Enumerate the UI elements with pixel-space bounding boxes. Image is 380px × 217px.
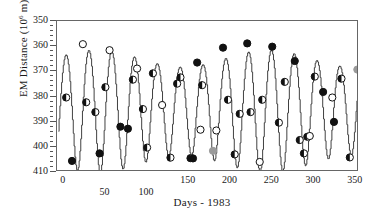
y-tick-minor (50, 60, 53, 61)
y-tick-minor (50, 131, 53, 132)
data-point-filled (320, 88, 327, 95)
y-tick-label: 410 (20, 166, 48, 176)
data-point-half (236, 110, 243, 117)
data-point-half (338, 75, 345, 82)
data-point-half (83, 99, 90, 106)
y-tick-minor (50, 111, 53, 112)
y-tick-label: 370 (20, 65, 48, 75)
data-point-open (329, 94, 336, 101)
y-tick-minor (50, 136, 53, 137)
y-tick-minor (50, 141, 53, 142)
data-point-filled (124, 125, 131, 132)
y-tick-minor (50, 75, 53, 76)
y-tick-minor (50, 90, 53, 91)
y-tick-minor (50, 106, 53, 107)
data-point-half (224, 96, 231, 103)
y-tick-minor (50, 65, 53, 66)
data-point-filled (68, 157, 75, 164)
data-point-markers (63, 40, 358, 166)
x-tick-label: 300 (296, 175, 330, 185)
data-point-filled (194, 59, 201, 66)
x-axis-label: Days - 1983 (56, 196, 348, 208)
data-point-open (213, 127, 220, 134)
data-point-half (311, 73, 318, 80)
data-point-half (346, 154, 353, 161)
data-point-half (259, 96, 266, 103)
data-point-half (92, 109, 99, 116)
y-tick-label: 380 (20, 91, 48, 101)
data-point-half (63, 94, 70, 101)
y-tick-label: 360 (20, 40, 48, 50)
data-point-half (281, 78, 288, 85)
chart-figure: EM Distance (106 m) 35036037038039040041… (0, 0, 380, 217)
data-point-open (256, 158, 263, 165)
data-point-filled (96, 150, 103, 157)
data-point-open (79, 41, 86, 48)
data-point-open (306, 132, 313, 139)
data-point-half (139, 105, 146, 112)
data-point-half (167, 154, 174, 161)
y-tick-minor (50, 25, 53, 26)
y-tick-minor (50, 40, 53, 41)
data-point-half (177, 74, 184, 81)
y-tick-label: 400 (20, 141, 48, 151)
y-tick-minor (50, 151, 53, 152)
data-point-filled (269, 43, 276, 50)
data-point-gray (354, 66, 358, 73)
data-point-half (247, 109, 254, 116)
data-point-filled (330, 118, 337, 125)
x-tick-label: 250 (254, 175, 288, 185)
data-point-open (106, 47, 113, 54)
y-axis-label-unit: m) (17, 0, 29, 15)
y-tick-minor (50, 166, 53, 167)
data-point-open (159, 101, 166, 108)
x-tick-label: 150 (171, 175, 205, 185)
data-point-filled (117, 123, 124, 130)
data-point-half (143, 144, 150, 151)
y-axis-label-text: EM Distance (10 (17, 19, 29, 97)
data-point-half (149, 70, 156, 77)
data-point-half (300, 150, 307, 157)
y-tick-label: 350 (20, 15, 48, 25)
y-tick-major (50, 171, 56, 172)
data-point-half (102, 84, 109, 91)
data-point-filled (291, 57, 298, 64)
data-point-filled (189, 155, 196, 162)
plot-svg (57, 21, 358, 171)
y-tick-label: 390 (20, 116, 48, 126)
data-point-open (197, 126, 204, 133)
data-point-half (296, 136, 303, 143)
y-tick-minor (50, 80, 53, 81)
y-tick-minor (50, 101, 53, 102)
y-tick-minor (50, 85, 53, 86)
data-point-gray (209, 147, 216, 154)
data-point-half (199, 82, 206, 89)
x-tick-label: 200 (213, 175, 247, 185)
data-point-open (133, 65, 140, 72)
y-tick-minor (50, 161, 53, 162)
plot-area (56, 20, 358, 171)
y-tick-minor (50, 55, 53, 56)
y-tick-minor (50, 35, 53, 36)
x-tick-label: 350 (338, 175, 372, 185)
data-point-half (231, 151, 238, 158)
data-point-filled (244, 40, 251, 47)
data-point-half (129, 76, 136, 83)
y-tick-minor (50, 30, 53, 31)
y-tick-minor (50, 116, 53, 117)
x-tick-label: 0 (46, 175, 80, 185)
y-tick-minor (50, 50, 53, 51)
data-point-half (275, 119, 282, 126)
y-tick-minor (50, 126, 53, 127)
data-point-filled (219, 44, 226, 51)
y-tick-minor (50, 156, 53, 157)
